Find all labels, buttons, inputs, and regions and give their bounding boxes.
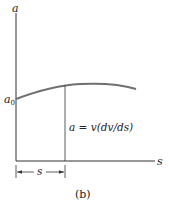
x-axis-label: s [157, 155, 163, 168]
equation-label: a = v(dv/ds) [69, 121, 133, 133]
figure-caption: (b) [75, 188, 91, 201]
arrowhead-right-icon [59, 170, 64, 173]
a-s-diagram: a s a0 a = v(dv/ds) s (b) [0, 0, 169, 206]
intercept-subscript: 0 [11, 99, 15, 107]
dimension-label: s [37, 165, 43, 177]
arrowhead-left-icon [17, 170, 22, 173]
intercept-label: a0 [4, 93, 15, 107]
acceleration-curve [16, 84, 136, 99]
y-axis-label: a [12, 2, 19, 15]
